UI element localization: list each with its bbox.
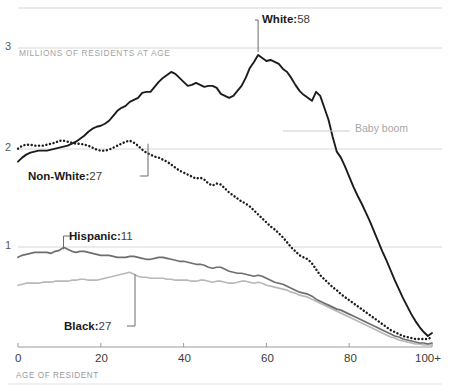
data-series-group bbox=[18, 55, 432, 345]
x-tick-label-40: 40 bbox=[178, 352, 191, 364]
gridlines bbox=[18, 48, 442, 247]
leader-white bbox=[255, 20, 258, 52]
annotation-white: White:58 bbox=[262, 13, 310, 25]
x-tick-label-0: 0 bbox=[15, 352, 21, 364]
chart-container: 3 2 1 MILLIONS OF RESIDENTS AT AGE 0 20 … bbox=[0, 0, 450, 388]
annotation-black: Black:27 bbox=[64, 320, 111, 332]
annotation-black-value: 27 bbox=[99, 320, 112, 332]
annotation-white-label: White: bbox=[262, 13, 297, 25]
x-tick-label-80: 80 bbox=[344, 352, 357, 364]
x-tick-label-100: 100+ bbox=[415, 352, 441, 364]
annotation-white-value: 58 bbox=[297, 13, 310, 25]
annotation-baby-boom: Baby boom bbox=[355, 122, 408, 134]
y-axis-caption: MILLIONS OF RESIDENTS AT AGE bbox=[19, 48, 170, 58]
x-axis-caption: AGE OF RESIDENT bbox=[16, 371, 99, 380]
annotation-hispanic-label: Hispanic: bbox=[69, 230, 121, 242]
y-tick-label-3: 3 bbox=[5, 40, 11, 52]
annotation-hispanic: Hispanic:11 bbox=[69, 230, 133, 242]
series-line-black bbox=[18, 272, 432, 345]
annotation-non-white-value: 27 bbox=[89, 170, 102, 182]
y-tick-label-2: 2 bbox=[5, 141, 11, 153]
annotation-non-white-label: Non-White: bbox=[28, 170, 89, 182]
x-tick-label-60: 60 bbox=[261, 352, 274, 364]
x-tick-label-20: 20 bbox=[95, 352, 108, 364]
annotation-non-white: Non-White:27 bbox=[28, 170, 102, 182]
x-axis bbox=[18, 343, 432, 347]
annotation-black-label: Black: bbox=[64, 320, 99, 332]
series-line-white bbox=[18, 55, 432, 336]
y-tick-label-1: 1 bbox=[5, 239, 11, 251]
annotation-hispanic-value: 11 bbox=[121, 230, 133, 242]
